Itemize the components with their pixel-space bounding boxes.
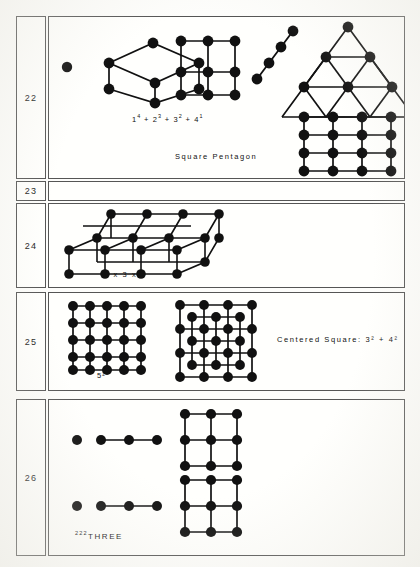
- row-panel-24: 2 x 3 x 4: [48, 203, 405, 288]
- grid-3x3-upper: [177, 406, 245, 474]
- row-panel-22: 14 + 23 + 32 + 41 Square Pentagon: [48, 16, 405, 179]
- scanned-page: 22: [0, 0, 420, 567]
- row-number-26: 26: [16, 399, 46, 556]
- row-number-22: 22: [16, 16, 46, 179]
- dot-and-triple-bottom: [69, 496, 169, 516]
- row-number-24: 24: [16, 203, 46, 288]
- centered-square-figure: [171, 296, 267, 386]
- row-number-label: 22: [25, 93, 37, 103]
- row-number-label: 26: [25, 473, 37, 483]
- three-caption-exponents: 222: [75, 530, 88, 536]
- row-panel-25: 5²: [48, 292, 405, 391]
- single-dot: [59, 59, 79, 79]
- row-panel-26: 222THREE: [48, 399, 405, 556]
- five-squared-text: 5²: [97, 371, 106, 380]
- centered-square-formula-text: Centered Square: 3² + 4²: [277, 335, 399, 344]
- row-number-25: 25: [16, 292, 46, 391]
- box-dimensions-label: 2 x 3 x 4: [104, 270, 147, 279]
- three-caption: 222THREE: [75, 532, 123, 541]
- row-number-label: 24: [25, 241, 37, 251]
- row-panel-23: [48, 181, 405, 201]
- term-1-exp: 4: [137, 113, 141, 119]
- sum-formula-label: 14 + 23 + 32 + 41: [132, 113, 203, 124]
- square-grid-3x3: [173, 31, 243, 103]
- term-3-exp: 2: [179, 113, 183, 119]
- term-3-base: + 3: [165, 115, 179, 124]
- term-2-exp: 3: [158, 113, 162, 119]
- dot-and-triple-top: [69, 430, 169, 450]
- term-2-base: + 2: [144, 115, 158, 124]
- square-grid-5x5: [65, 298, 149, 376]
- grid-3x3-lower: [177, 472, 245, 540]
- three-caption-text: THREE: [88, 532, 123, 541]
- row-number-23: 23: [16, 181, 46, 201]
- term-4-base: + 4: [186, 115, 200, 124]
- five-squared-label: 5²: [97, 371, 106, 380]
- square-pentagon-caption: Square Pentagon: [175, 152, 257, 161]
- row-number-label: 23: [25, 186, 37, 196]
- pentagon-house: [291, 19, 405, 179]
- term-4-exp: 1: [199, 113, 203, 119]
- centered-square-formula-label: Centered Square: 3² + 4²: [277, 335, 399, 344]
- row-number-label: 25: [25, 337, 37, 347]
